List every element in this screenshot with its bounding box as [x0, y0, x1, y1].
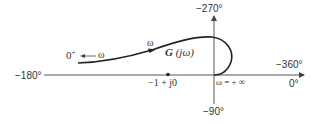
start-arrow-icon: [80, 54, 85, 58]
curve-name-label: G (jω): [165, 47, 194, 57]
start-label-base: 0: [66, 49, 72, 61]
start-arrow-omega: ω: [98, 50, 105, 60]
start-label: 0+: [66, 50, 75, 60]
critical-point-label: −1 + j0: [148, 78, 177, 88]
mid-arrow-omega: ω: [147, 38, 154, 48]
axis-label-bottom: −90°: [203, 107, 224, 117]
axis-label-top: −270°: [196, 4, 223, 14]
axis-label-left: −180°: [15, 71, 42, 81]
nyquist-diagram: −180° −270° −360° 0° −90° 0+ ω ω G (jω) …: [0, 0, 313, 124]
curve-name-arg: (jω): [176, 46, 194, 58]
curve-end-label: ω = + ∞: [216, 77, 245, 87]
diagram-canvas: [0, 0, 313, 124]
axis-label-right-bottom: 0°: [289, 79, 299, 89]
critical-point-dot: [166, 73, 170, 77]
start-label-sup: +: [72, 49, 76, 57]
axis-label-right-top: −360°: [276, 60, 303, 70]
curve-name-prefix: G: [165, 46, 173, 58]
